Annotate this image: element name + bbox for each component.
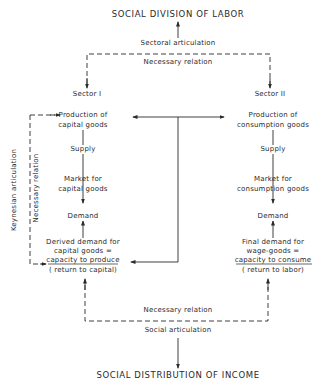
- sector2-market-line1: Market for: [236, 175, 310, 184]
- sector1-derived-line4: ( return to capital): [43, 266, 123, 275]
- sector2-final-line3: capacity to consume: [234, 256, 312, 265]
- sector2-supply: Supply: [253, 145, 293, 154]
- label-bottom-necessary-relation: Necessary relation: [128, 306, 228, 315]
- sector1-derived-line3: capacity to produce: [43, 256, 123, 265]
- label-social-articulation: Social articulation: [128, 326, 228, 335]
- sector1-market-line2: capital goods: [53, 185, 113, 194]
- sector1-demand: Demand: [63, 212, 103, 221]
- sector1-supply: Supply: [63, 145, 103, 154]
- sector2-production-line2: consumption goods: [236, 121, 310, 130]
- sector2-production-line1: Production of: [236, 111, 310, 120]
- title-social-division-of-labor: SOCIAL DIVISION OF LABOR: [108, 10, 248, 19]
- label-top-necessary-relation: Necessary relation: [128, 58, 228, 67]
- sector2-final-line2: wage-goods =: [234, 247, 312, 256]
- sector2-demand: Demand: [253, 212, 293, 221]
- sector1-market-line1: Market for: [53, 175, 113, 184]
- title-social-distribution-of-income: SOCIAL DISTRIBUTION OF INCOME: [93, 371, 263, 380]
- label-sector-1: Sector I: [67, 90, 107, 99]
- label-sector-2: Sector II: [250, 90, 290, 99]
- sector1-derived-line2: capital goods =: [43, 247, 123, 256]
- bottom-dashed-bracket: [85, 285, 268, 321]
- sector1-production-line2: capital goods: [53, 121, 113, 130]
- sector2-market-line2: consumption goods: [236, 185, 310, 194]
- sector2-final-line4: ( return to labor): [234, 266, 312, 275]
- sector1-derived-line1: Derived demand for: [43, 238, 123, 247]
- label-keynesian-articulation: Keynesian articulation: [10, 145, 18, 235]
- sector2-final-line1: Final demand for: [234, 238, 312, 247]
- label-left-necessary-relation: Necessary relation: [32, 148, 40, 228]
- sector1-production-line1: Production of: [53, 111, 113, 120]
- label-sectoral-articulation: Sectoral articulation: [128, 39, 228, 48]
